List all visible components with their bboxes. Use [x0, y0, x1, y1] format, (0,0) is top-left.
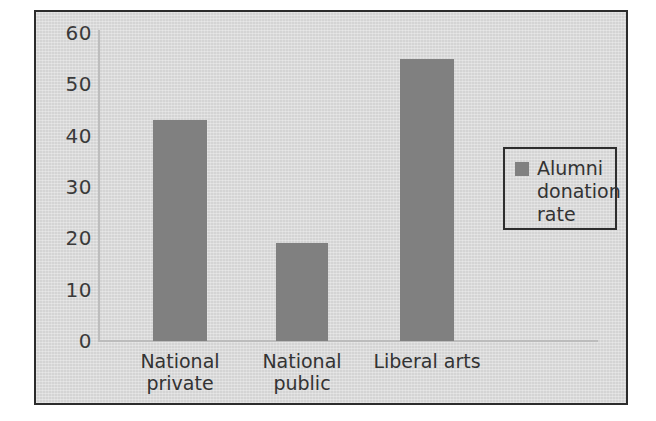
legend-color-swatch: [515, 162, 529, 176]
y-tick-30: 30: [46, 177, 92, 197]
x-tick-line-2: public: [227, 372, 377, 394]
legend: Alumni donation rate: [503, 147, 617, 230]
figure-frame: 60 50 40 30 20 10 0 National private Nat…: [34, 10, 628, 405]
bar-liberal-arts: [400, 59, 454, 341]
y-tick-60: 60: [46, 23, 92, 43]
y-axis-line: [98, 30, 100, 342]
y-tick-0: 0: [46, 331, 92, 351]
x-tick-line-1: Liberal arts: [352, 350, 502, 372]
y-tick-20: 20: [46, 228, 92, 248]
y-tick-40: 40: [46, 126, 92, 146]
bar-national-private: [153, 120, 207, 341]
bar-chart-figure: 60 50 40 30 20 10 0 National private Nat…: [0, 0, 656, 421]
x-tick-label-liberal-arts: Liberal arts: [352, 350, 502, 372]
bar-national-public: [276, 243, 328, 341]
y-tick-50: 50: [46, 74, 92, 94]
plot-area: 60 50 40 30 20 10 0 National private Nat…: [36, 12, 626, 403]
legend-label-alumni-donation-rate: Alumni donation rate: [537, 157, 621, 227]
y-tick-10: 10: [46, 280, 92, 300]
